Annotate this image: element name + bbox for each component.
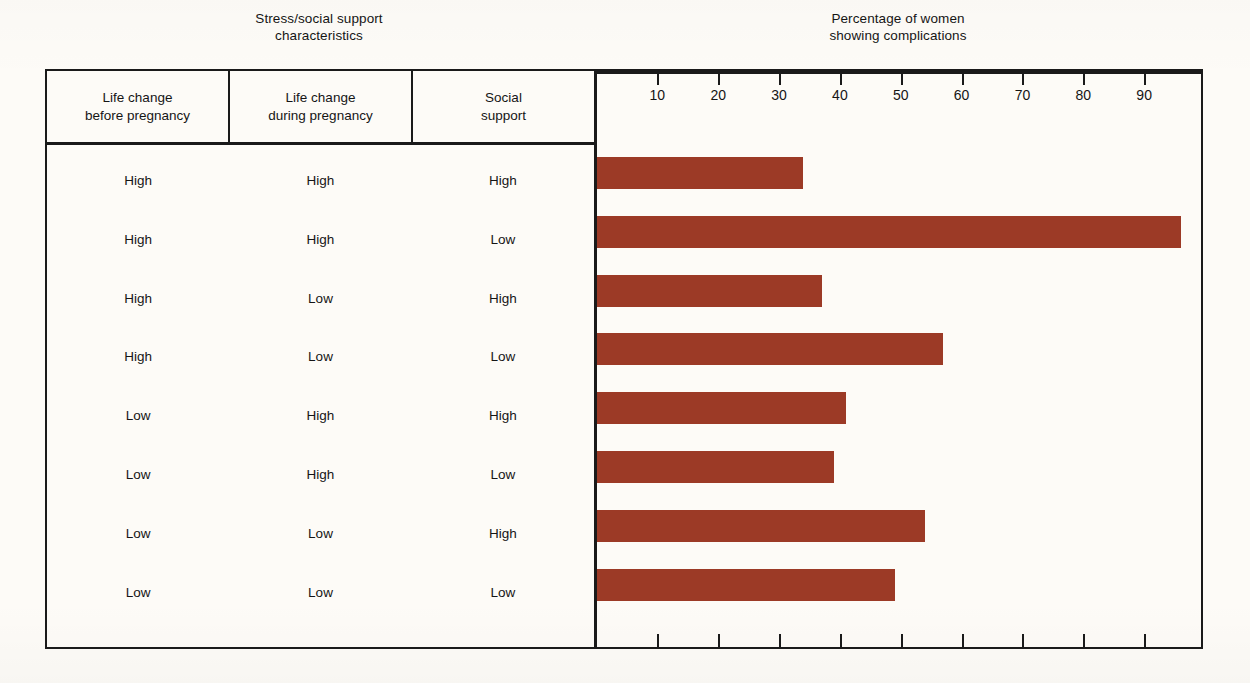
table-body: HighHighHighHighHighLowHighLowHighHighLo… bbox=[47, 145, 594, 648]
cell-social-support: High bbox=[412, 396, 594, 436]
table-header-row: Life change before pregnancy Life change… bbox=[47, 71, 594, 142]
axis-tick-bottom bbox=[840, 634, 842, 647]
cell-social-support: Low bbox=[412, 337, 594, 377]
column-header-line2: support bbox=[481, 107, 526, 125]
axis-tick-top bbox=[1144, 74, 1146, 85]
axis-tick-label: 50 bbox=[881, 87, 921, 103]
right-group-title: Percentage of women showing complication… bbox=[593, 10, 1203, 44]
column-header-line1: Social bbox=[485, 89, 522, 107]
column-header-line1: Life change bbox=[103, 89, 173, 107]
bar bbox=[597, 569, 895, 601]
cell-life-change-before-pregnancy: Low bbox=[47, 513, 229, 553]
table-row: LowLowHigh bbox=[47, 513, 594, 553]
table-row: LowHighLow bbox=[47, 455, 594, 495]
cell-social-support: High bbox=[412, 278, 594, 318]
cell-life-change-before-pregnancy: Low bbox=[47, 572, 229, 612]
cell-life-change-during-pregnancy: High bbox=[229, 161, 411, 201]
table-row: HighHighHigh bbox=[47, 161, 594, 201]
cell-life-change-during-pregnancy: Low bbox=[229, 278, 411, 318]
cell-life-change-during-pregnancy: Low bbox=[229, 337, 411, 377]
axis-tick-label: 30 bbox=[759, 87, 799, 103]
cell-social-support: Low bbox=[412, 219, 594, 259]
axis-tick-label: 90 bbox=[1124, 87, 1164, 103]
bar bbox=[597, 275, 822, 307]
cell-life-change-during-pregnancy: Low bbox=[229, 572, 411, 612]
bar bbox=[597, 216, 1181, 248]
bar bbox=[597, 392, 846, 424]
bar-plot-area: 102030405060708090 bbox=[597, 71, 1202, 647]
table-row: HighHighLow bbox=[47, 219, 594, 259]
axis-tick-top bbox=[718, 74, 720, 85]
column-header-life-change-during-pregnancy: Life change during pregnancy bbox=[228, 71, 411, 142]
figure-frame: Life change before pregnancy Life change… bbox=[45, 69, 1203, 649]
cell-life-change-before-pregnancy: High bbox=[47, 278, 229, 318]
cell-life-change-before-pregnancy: High bbox=[47, 219, 229, 259]
axis-tick-top bbox=[901, 74, 903, 85]
axis-tick-bottom bbox=[1144, 634, 1146, 647]
axis-tick-label: 40 bbox=[820, 87, 860, 103]
axis-tick-top bbox=[962, 74, 964, 85]
axis-tick-bottom bbox=[1022, 634, 1024, 647]
table-row: LowHighHigh bbox=[47, 396, 594, 436]
bar bbox=[597, 451, 834, 483]
axis-tick-bottom bbox=[901, 634, 903, 647]
column-header-line2: before pregnancy bbox=[85, 107, 190, 125]
cell-social-support: High bbox=[412, 513, 594, 553]
axis-tick-label: 20 bbox=[698, 87, 738, 103]
axis-tick-label: 10 bbox=[637, 87, 677, 103]
cell-life-change-before-pregnancy: High bbox=[47, 161, 229, 201]
characteristics-table: Life change before pregnancy Life change… bbox=[47, 71, 594, 647]
axis-tick-label: 60 bbox=[942, 87, 982, 103]
column-header-social-support: Social support bbox=[411, 71, 594, 142]
cell-life-change-during-pregnancy: Low bbox=[229, 513, 411, 553]
axis-tick-bottom bbox=[718, 634, 720, 647]
figure-page: Stress/social support characteristics Pe… bbox=[0, 0, 1250, 683]
axis-tick-top bbox=[1022, 74, 1024, 85]
cell-social-support: Low bbox=[412, 455, 594, 495]
table-row: LowLowLow bbox=[47, 572, 594, 612]
bar bbox=[597, 157, 804, 189]
column-header-line2: during pregnancy bbox=[268, 107, 372, 125]
left-group-title: Stress/social support characteristics bbox=[45, 10, 593, 44]
axis-tick-bottom bbox=[779, 634, 781, 647]
axis-tick-bottom bbox=[1083, 634, 1085, 647]
axis-tick-top bbox=[657, 74, 659, 85]
axis-tick-top bbox=[1083, 74, 1085, 85]
top-axis-line bbox=[597, 71, 1202, 74]
cell-life-change-during-pregnancy: High bbox=[229, 219, 411, 259]
axis-tick-top bbox=[840, 74, 842, 85]
cell-social-support: Low bbox=[412, 572, 594, 612]
axis-tick-label: 80 bbox=[1063, 87, 1103, 103]
table-row: HighLowLow bbox=[47, 337, 594, 377]
left-group-title-line1: Stress/social support bbox=[45, 10, 593, 27]
cell-life-change-during-pregnancy: High bbox=[229, 396, 411, 436]
cell-life-change-during-pregnancy: High bbox=[229, 455, 411, 495]
cell-life-change-before-pregnancy: Low bbox=[47, 455, 229, 495]
axis-tick-top bbox=[779, 74, 781, 85]
top-axis: 102030405060708090 bbox=[597, 71, 1202, 142]
cell-social-support: High bbox=[412, 161, 594, 201]
cell-life-change-before-pregnancy: High bbox=[47, 337, 229, 377]
cell-life-change-before-pregnancy: Low bbox=[47, 396, 229, 436]
column-header-line1: Life change bbox=[286, 89, 356, 107]
right-group-title-line1: Percentage of women bbox=[593, 10, 1203, 27]
axis-tick-bottom bbox=[962, 634, 964, 647]
right-group-title-line2: showing complications bbox=[593, 27, 1203, 44]
column-header-life-change-before-pregnancy: Life change before pregnancy bbox=[47, 71, 228, 142]
left-group-title-line2: characteristics bbox=[45, 27, 593, 44]
axis-tick-bottom bbox=[657, 634, 659, 647]
bar bbox=[597, 510, 926, 542]
axis-tick-label: 70 bbox=[1002, 87, 1042, 103]
table-row: HighLowHigh bbox=[47, 278, 594, 318]
bar bbox=[597, 333, 944, 365]
